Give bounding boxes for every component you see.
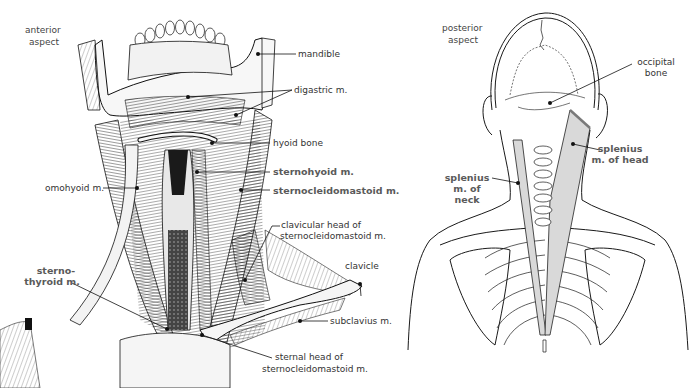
label-sternal-head: sternal head of <box>275 352 343 363</box>
label-clavicular-head-line2: sternocleidomastoid m. <box>280 231 386 242</box>
label-line: m. of head <box>590 154 650 165</box>
label-omohyoid: omohyoid m. <box>45 183 104 194</box>
label-line: m. of <box>442 183 492 194</box>
aspect-line-1: posterior <box>442 22 482 34</box>
label-splenius-head: splenius m. of head <box>590 143 650 165</box>
label-clavicular-head: clavicular head of <box>281 220 361 231</box>
label-clavicle: clavicle <box>345 261 379 272</box>
aspect-line-2: aspect <box>442 34 482 46</box>
anterior-aspect-label: anterior aspect <box>25 24 61 48</box>
label-line: neck <box>442 194 492 205</box>
label-line: occipital <box>628 57 684 68</box>
label-mandible: mandible <box>298 49 340 60</box>
label-sternohyoid: sternohyoid m. <box>273 166 354 177</box>
label-hyoid-bone: hyoid bone <box>273 138 323 149</box>
label-line: thyroid m. <box>22 276 82 287</box>
label-occipital-bone: occipital bone <box>628 57 684 79</box>
label-sternothyroid: sterno- thyroid m. <box>22 265 82 287</box>
label-sternal-head-line2: sternocleidomastoid m. <box>262 364 368 375</box>
posterior-aspect-label: posterior aspect <box>442 22 482 46</box>
label-line: splenius <box>590 143 650 154</box>
label-line: sterno- <box>22 265 82 276</box>
label-line: bone <box>628 68 684 79</box>
splenius-head-shape <box>545 110 590 335</box>
splenius-neck-shape <box>513 140 546 335</box>
label-line: clavicular head of <box>281 220 361 231</box>
label-digastric: digastric m. <box>294 85 347 96</box>
posterior-view-panel: posterior aspect occipital bone splenius… <box>400 0 695 388</box>
aspect-line-2: aspect <box>25 36 61 48</box>
anterior-view-panel: anterior aspect mandible digastric m. hy… <box>0 0 400 388</box>
label-sternocleidomastoid: sternocleidomastoid m. <box>273 185 399 196</box>
aspect-line-1: anterior <box>25 24 61 36</box>
label-splenius-neck: splenius m. of neck <box>442 172 492 205</box>
label-line: splenius <box>442 172 492 183</box>
label-subclavius: subclavius m. <box>330 316 392 327</box>
